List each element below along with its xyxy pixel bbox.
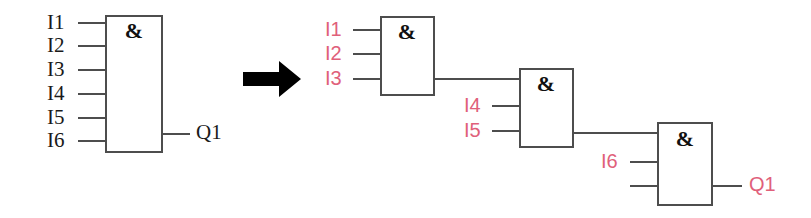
left-gate-input-label-4: I4 [47,81,65,105]
right-gate-a-symbol: & [398,19,416,44]
transform-arrow-group [243,61,301,97]
right-gate-c-symbol: & [676,126,694,151]
right-gate-b-input-label-3: I5 [464,119,481,141]
right-gate-a-input-label-1: I1 [325,18,342,40]
right-gate-a-input-label-2: I2 [325,42,342,64]
right-gate-b-group: & I4 I5 [464,69,658,147]
right-gate-b-symbol: & [537,71,555,96]
logic-diagram-svg: & I1 I2 I3 I4 I5 I6 Q1 & I1 [0,0,811,218]
right-gate-c-input-label-2: I6 [601,150,618,172]
left-gate-input-label-2: I2 [47,33,65,57]
logic-diagram-canvas: & I1 I2 I3 I4 I5 I6 Q1 & I1 [0,0,811,218]
right-gate-a-input-label-3: I3 [325,67,342,89]
right-gate-a-group: & I1 I2 I3 [325,17,520,95]
right-gate-c-group: & I6 Q1 [601,123,776,205]
transform-arrow-icon [243,61,301,97]
left-gate-input-label-3: I3 [47,57,65,81]
left-gate-input-label-1: I1 [47,10,65,34]
left-gate-group: & I1 I2 I3 I4 I5 I6 Q1 [47,10,222,152]
left-gate-input-label-5: I5 [47,105,65,129]
left-gate-input-label-6: I6 [47,128,65,152]
left-gate-output-label: Q1 [196,120,222,144]
right-gate-c-output-label: Q1 [749,173,776,195]
right-gate-b-input-label-2: I4 [464,94,481,116]
left-gate-symbol: & [125,18,143,43]
